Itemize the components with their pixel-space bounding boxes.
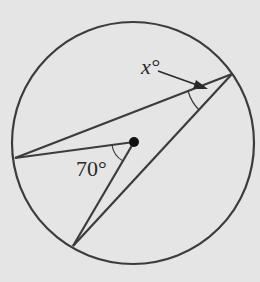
central-angle-arc — [112, 145, 123, 161]
center-point — [129, 137, 139, 147]
diagram-stage: x° 70° — [0, 0, 260, 282]
inscribed-angle-label: x° — [140, 54, 160, 79]
pointer-arrow-line — [158, 71, 200, 86]
central-angle-label: 70° — [76, 156, 107, 181]
inscribed-angle-arc — [188, 91, 199, 110]
geometry-diagram: x° 70° — [0, 0, 260, 282]
